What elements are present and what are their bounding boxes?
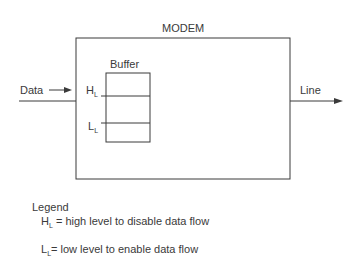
high-marker-sub: L <box>94 91 98 98</box>
data-input-label: Data <box>20 85 43 96</box>
high-marker-main: H <box>86 84 94 96</box>
legend-item-high: HL = high level to disable data flow <box>41 216 209 227</box>
line-output-arrow-icon <box>290 98 343 104</box>
data-arrow-icon <box>49 87 72 93</box>
legend-item-low: LL= low level to enable data flow <box>41 244 198 255</box>
modem-title: MODEM <box>162 23 204 34</box>
modem-box <box>76 38 290 179</box>
legend-high-sub: L <box>49 222 53 229</box>
low-level-marker: LL <box>88 121 98 132</box>
buffer-label: Buffer <box>110 59 139 70</box>
legend-high-text: = high level to disable data flow <box>53 215 209 227</box>
legend-high-main: H <box>41 215 49 227</box>
diagram-canvas <box>0 0 359 270</box>
low-marker-sub: L <box>94 127 98 134</box>
legend-heading: Legend <box>32 202 69 213</box>
buffer-box <box>106 73 150 142</box>
legend-low-text: = low level to enable data flow <box>51 243 198 255</box>
line-output-label: Line <box>300 85 321 96</box>
legend-low-sub: L <box>47 250 51 257</box>
high-level-marker: HL <box>86 85 98 96</box>
